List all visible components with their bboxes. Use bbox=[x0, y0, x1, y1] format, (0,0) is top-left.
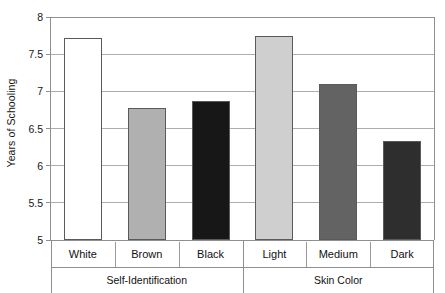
bar-chart: Years of Schooling 55.566.577.58 WhiteBr… bbox=[0, 0, 445, 293]
bars-layer bbox=[51, 17, 434, 240]
y-axis-tick-label: 5.5 bbox=[28, 197, 43, 209]
y-axis-tick-label: 7 bbox=[37, 85, 43, 97]
bar bbox=[319, 84, 357, 240]
x-axis-category-separator bbox=[370, 242, 371, 267]
x-axis: WhiteBrownBlackLightMediumDark Self-Iden… bbox=[51, 240, 434, 293]
bar bbox=[128, 108, 166, 240]
x-axis-category-label: Medium bbox=[306, 241, 370, 267]
y-axis-tick-label: 6 bbox=[37, 160, 43, 172]
x-axis-category-label: Brown bbox=[115, 241, 179, 267]
x-axis-edge-tick bbox=[51, 241, 52, 293]
bar bbox=[64, 38, 102, 240]
y-axis-tick-labels: 55.566.577.58 bbox=[22, 0, 47, 245]
y-axis-tick-label: 6.5 bbox=[28, 123, 43, 135]
x-axis-category-label: Light bbox=[243, 241, 307, 267]
x-axis-group-divider bbox=[243, 241, 244, 293]
bar bbox=[192, 101, 230, 240]
x-axis-category-label: White bbox=[51, 241, 115, 267]
x-axis-edge-tick bbox=[433, 241, 434, 293]
plot-right-border bbox=[434, 17, 435, 240]
x-axis-category-separator bbox=[179, 242, 180, 267]
x-axis-category-separator bbox=[115, 242, 116, 267]
y-axis-title-text: Years of Schooling bbox=[5, 78, 17, 167]
bar bbox=[255, 36, 293, 240]
y-axis-title: Years of Schooling bbox=[0, 0, 22, 245]
y-axis-tick-label: 5 bbox=[37, 234, 43, 246]
bar bbox=[383, 141, 421, 240]
y-axis-tick-label: 7.5 bbox=[28, 48, 43, 60]
x-axis-group-label: Skin Color bbox=[243, 268, 435, 292]
x-axis-category-label: Dark bbox=[370, 241, 434, 267]
x-axis-category-label: Black bbox=[179, 241, 243, 267]
plot-area bbox=[51, 17, 434, 240]
x-axis-group-label: Self-Identification bbox=[51, 268, 243, 292]
y-axis-tick-label: 8 bbox=[37, 11, 43, 23]
x-axis-category-separator bbox=[306, 242, 307, 267]
